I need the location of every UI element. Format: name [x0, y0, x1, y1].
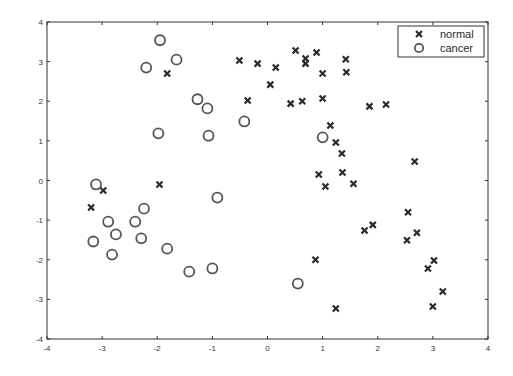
series-cancer	[88, 35, 327, 288]
circle-marker	[162, 244, 172, 254]
x-marker	[414, 230, 420, 236]
circle-marker	[318, 132, 328, 142]
data-points	[88, 35, 446, 311]
y-tick-label: 2	[39, 97, 44, 106]
x-marker	[412, 158, 418, 164]
x-marker	[267, 82, 273, 88]
circle-marker	[239, 116, 249, 126]
y-tick-label: -4	[36, 335, 44, 344]
x-tick-label: 0	[265, 344, 270, 353]
x-marker	[383, 101, 389, 107]
circle-marker	[207, 263, 217, 273]
x-marker	[288, 101, 294, 107]
circle-marker	[172, 55, 182, 65]
circle-marker	[204, 131, 214, 141]
x-marker	[327, 122, 333, 128]
x-marker	[404, 237, 410, 243]
x-marker	[322, 183, 328, 189]
x-tick-label: 2	[376, 344, 381, 353]
y-tick-label: -1	[36, 216, 44, 225]
x-marker	[303, 61, 309, 67]
legend-label-cancer: cancer	[440, 42, 473, 54]
circle-marker	[192, 94, 202, 104]
circle-marker	[184, 267, 194, 277]
y-tick-label: 1	[39, 137, 44, 146]
circle-marker	[139, 204, 149, 214]
x-marker	[362, 227, 368, 233]
x-marker	[339, 151, 345, 157]
legend-label-normal: normal	[440, 28, 474, 40]
x-marker	[405, 209, 411, 215]
x-marker	[88, 204, 94, 210]
x-axis: -4-3-2-101234	[43, 22, 490, 353]
x-tick-label: -1	[209, 344, 217, 353]
x-marker	[255, 61, 261, 67]
x-marker	[236, 57, 242, 63]
circle-marker	[136, 233, 146, 243]
x-marker	[314, 50, 320, 56]
x-marker	[430, 304, 436, 310]
circle-marker	[293, 279, 303, 289]
circle-marker	[130, 217, 140, 227]
x-marker	[316, 172, 322, 178]
y-tick-label: 4	[39, 18, 44, 27]
x-marker	[299, 98, 305, 104]
x-marker	[293, 48, 299, 54]
legend: normal cancer	[398, 26, 484, 57]
x-tick-label: 3	[431, 344, 436, 353]
x-marker	[164, 71, 170, 77]
circle-marker	[202, 103, 212, 113]
y-tick-label: 3	[39, 58, 44, 67]
x-marker	[320, 71, 326, 77]
circle-marker	[155, 35, 165, 45]
axes-box	[47, 22, 488, 339]
x-marker	[440, 288, 446, 294]
x-tick-label: -4	[43, 344, 51, 353]
x-marker	[339, 170, 345, 176]
x-tick-label: 4	[486, 344, 491, 353]
y-tick-label: -3	[36, 295, 44, 304]
x-marker	[333, 139, 339, 145]
x-marker	[320, 95, 326, 101]
circle-marker	[107, 250, 117, 260]
circle-marker	[111, 229, 121, 239]
x-marker	[431, 258, 437, 264]
x-marker	[273, 65, 279, 71]
x-marker	[370, 222, 376, 228]
series-normal	[88, 48, 446, 312]
circle-marker	[91, 179, 101, 189]
x-marker	[100, 187, 106, 193]
circle-marker	[212, 193, 222, 203]
x-marker	[245, 97, 251, 103]
x-tick-label: -2	[154, 344, 162, 353]
x-marker	[366, 103, 372, 109]
circle-marker	[103, 217, 113, 227]
x-tick-label: 1	[320, 344, 325, 353]
x-marker	[333, 305, 339, 311]
circle-marker	[141, 63, 151, 73]
circle-marker	[88, 237, 98, 247]
y-tick-label: -2	[36, 256, 44, 265]
x-marker	[343, 69, 349, 75]
x-marker	[425, 265, 431, 271]
plot-area	[47, 22, 488, 339]
x-marker	[312, 257, 318, 263]
x-marker	[350, 181, 356, 187]
x-marker	[343, 56, 349, 62]
y-axis: -4-3-2-101234	[36, 18, 488, 344]
x-tick-label: -3	[99, 344, 107, 353]
x-marker	[156, 181, 162, 187]
circle-marker	[153, 128, 163, 138]
y-tick-label: 0	[39, 177, 44, 186]
scatter-chart: -4-3-2-101234 -4-3-2-101234 normal cance…	[0, 0, 513, 376]
